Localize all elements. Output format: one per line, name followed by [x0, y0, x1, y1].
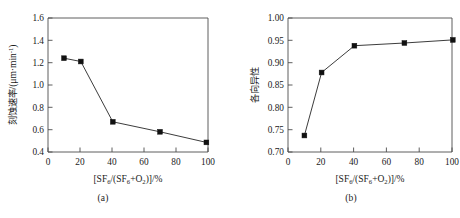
chart-panel-a: 0.4 0.6 0.8 1.0 1.2 1.4 1.6 0 20 — [0, 0, 230, 218]
y-tick-label: 1.0 — [32, 80, 44, 90]
x-ticks-a — [48, 148, 208, 153]
x-axis-title-b: [SF6/(SF6+O2)]/% — [335, 174, 404, 185]
y-tick-label: 0.8 — [32, 103, 44, 113]
y-axis-title-cjk-b: 各向异性 — [249, 67, 260, 103]
y-tick-label: 1.2 — [32, 58, 44, 68]
etch-rate-plot: 0.4 0.6 0.8 1.0 1.2 1.4 1.6 0 20 — [0, 0, 230, 218]
anisotropy-markers — [302, 38, 455, 138]
y-axis-title-cjk-a: 刻蚀速率 — [7, 89, 18, 125]
y-tick-label: 0.6 — [32, 125, 44, 135]
data-point-marker — [110, 119, 115, 124]
x-title-open-a: [SF — [93, 174, 107, 184]
anisotropy-plot: 0.70 0.75 0.80 0.85 0.90 0.95 1.00 0 20 — [230, 0, 460, 218]
x-tick-label: 20 — [75, 157, 85, 167]
x-title-plus-a: +O — [130, 174, 142, 184]
x-title-mid-a: /(SF — [110, 174, 126, 185]
y-tick-label: 0.70 — [268, 147, 285, 157]
x-tick-labels-b: 0 20 40 60 80 100 — [286, 157, 460, 167]
data-point-marker — [78, 59, 83, 64]
x-ticks-b — [288, 148, 452, 153]
x-tick-label: 80 — [415, 157, 425, 167]
etch-rate-series-line — [64, 58, 206, 142]
x-title-plus-b: +O — [372, 174, 384, 184]
x-tick-label: 0 — [286, 157, 291, 167]
y-tick-label: 0.90 — [268, 58, 285, 68]
x-tick-label: 0 — [46, 157, 51, 167]
x-tick-label: 100 — [445, 157, 459, 167]
figure-container: 0.4 0.6 0.8 1.0 1.2 1.4 1.6 0 20 — [0, 0, 460, 218]
y-tick-labels-a: 0.4 0.6 0.8 1.0 1.2 1.4 1.6 — [32, 13, 44, 157]
y-tick-labels-b: 0.70 0.75 0.80 0.85 0.90 0.95 1.00 — [268, 13, 285, 157]
x-title-open-b: [SF — [335, 174, 349, 184]
x-tick-label: 60 — [382, 157, 392, 167]
y-ticks-b — [288, 18, 293, 152]
data-point-marker — [352, 43, 357, 48]
y-tick-label: 0.4 — [32, 147, 44, 157]
y-axis-title-b: 各向异性 — [249, 67, 260, 103]
y-tick-label: 1.00 — [268, 13, 285, 23]
y-tick-label: 1.6 — [32, 13, 44, 23]
data-point-marker — [302, 133, 307, 138]
x-axis-title-a: [SF6/(SF6+O2)]/% — [93, 174, 162, 185]
y-axis-title-unit-close-a: ) — [8, 45, 19, 48]
x-tick-label: 40 — [107, 157, 117, 167]
panel-caption-b: (b) — [236, 193, 460, 203]
plot-axes-b — [288, 18, 452, 152]
x-tick-label: 20 — [316, 157, 326, 167]
y-tick-label: 1.4 — [32, 36, 44, 46]
plot-axes — [48, 18, 208, 152]
x-title-mid-b: /(SF — [352, 174, 368, 185]
y-axis-title-unit-open-a: /(μm·min — [8, 53, 19, 89]
y-axis-title-a: 刻蚀速率/(μm·min-1) — [7, 45, 19, 126]
data-point-marker — [62, 56, 67, 61]
x-tick-label: 40 — [349, 157, 359, 167]
x-tick-label: 60 — [139, 157, 149, 167]
y-tick-label: 0.80 — [268, 103, 285, 113]
anisotropy-series-line — [304, 40, 452, 136]
chart-panel-b: 0.70 0.75 0.80 0.85 0.90 0.95 1.00 0 20 — [230, 0, 460, 218]
x-tick-label: 80 — [171, 157, 181, 167]
data-point-marker — [204, 140, 209, 145]
x-title-close-a: )]/% — [146, 174, 163, 185]
y-tick-label: 0.75 — [268, 125, 285, 135]
etch-rate-markers — [62, 56, 209, 145]
y-ticks-a — [48, 18, 53, 152]
data-point-marker — [402, 41, 407, 46]
x-tick-labels-a: 0 20 40 60 80 100 — [46, 157, 216, 167]
data-point-marker — [319, 70, 324, 75]
panel-caption-a: (a) — [0, 193, 218, 203]
data-point-marker — [450, 38, 455, 43]
svg-text:刻蚀速率/(μm·min-1): 刻蚀速率/(μm·min-1) — [7, 45, 19, 126]
x-title-close-b: )]/% — [388, 174, 405, 185]
y-tick-label: 0.95 — [268, 36, 285, 46]
y-tick-label: 0.85 — [268, 80, 285, 90]
x-tick-label: 100 — [201, 157, 215, 167]
data-point-marker — [158, 129, 163, 134]
